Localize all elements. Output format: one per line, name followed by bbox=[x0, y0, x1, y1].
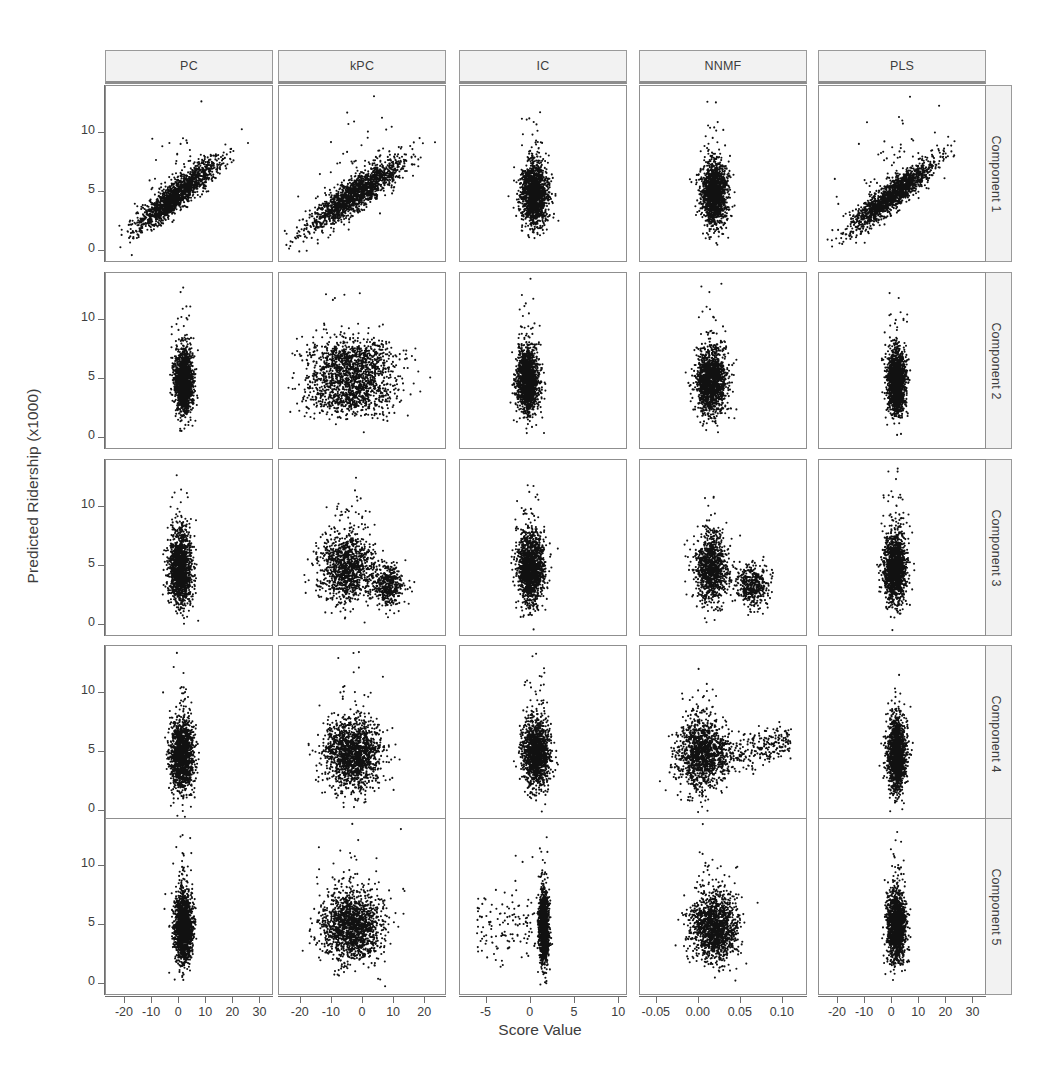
x-tick-mark bbox=[486, 997, 487, 1003]
y-axis-line bbox=[104, 818, 105, 995]
y-tick-label: 5 bbox=[57, 556, 95, 570]
scatter-points bbox=[819, 646, 986, 822]
y-tick-mark bbox=[98, 983, 104, 984]
y-axis-line bbox=[104, 272, 105, 449]
y-tick-label: 0 bbox=[57, 241, 95, 255]
x-axis-line bbox=[459, 996, 627, 997]
scatter-points bbox=[460, 460, 627, 636]
scatter-points bbox=[279, 460, 446, 636]
scatter-panel-pc-component-2 bbox=[105, 272, 273, 449]
scatter-points bbox=[106, 646, 273, 822]
column-strip-label: PLS bbox=[890, 59, 914, 73]
scatter-points bbox=[819, 819, 986, 995]
y-tick-mark bbox=[98, 865, 104, 866]
scatter-panel-ic-component-1 bbox=[459, 85, 627, 262]
y-tick-mark bbox=[98, 810, 104, 811]
y-tick-label: 10 bbox=[57, 123, 95, 137]
scatter-panel-ic-component-2 bbox=[459, 272, 627, 449]
x-tick-mark bbox=[124, 997, 125, 1003]
y-tick-mark bbox=[98, 191, 104, 192]
scatter-points bbox=[106, 273, 273, 449]
y-tick-label: 10 bbox=[57, 497, 95, 511]
x-tick-mark bbox=[891, 997, 892, 1003]
y-axis-line bbox=[104, 85, 105, 262]
x-tick-mark bbox=[530, 997, 531, 1003]
scatter-points bbox=[106, 819, 273, 995]
y-tick-label: 10 bbox=[57, 683, 95, 697]
column-strip-label: PC bbox=[180, 59, 198, 73]
x-tick-mark bbox=[232, 997, 233, 1003]
scatter-panel-ic-component-5 bbox=[459, 818, 627, 995]
row-strip-label: Component 4 bbox=[989, 695, 1003, 772]
y-tick-mark bbox=[98, 437, 104, 438]
scatter-panel-pc-component-5 bbox=[105, 818, 273, 995]
y-axis-title: Predicted Ridership (x1000) bbox=[24, 316, 42, 656]
y-tick-mark bbox=[98, 378, 104, 379]
scatter-panel-nnmf-component-4 bbox=[639, 645, 807, 822]
scatterplot-matrix-figure: Predicted Ridership (x1000) Score Value … bbox=[0, 0, 1052, 1079]
scatter-panel-kpc-component-2 bbox=[278, 272, 446, 449]
y-tick-mark bbox=[98, 132, 104, 133]
scatter-points bbox=[106, 86, 273, 262]
x-tick-label: 0.10 bbox=[752, 1005, 812, 1019]
y-tick-label: 0 bbox=[57, 801, 95, 815]
row-strip-label: Component 1 bbox=[989, 135, 1003, 212]
row-strip-label: Component 3 bbox=[989, 509, 1003, 586]
x-tick-mark bbox=[331, 997, 332, 1003]
x-tick-mark bbox=[837, 997, 838, 1003]
x-tick-label: 30 bbox=[942, 1005, 1002, 1019]
scatter-panel-pc-component-4 bbox=[105, 645, 273, 822]
x-axis-line bbox=[818, 996, 986, 997]
scatter-panel-pls-component-3 bbox=[818, 459, 986, 636]
scatter-panel-kpc-component-3 bbox=[278, 459, 446, 636]
x-tick-mark bbox=[972, 997, 973, 1003]
x-tick-mark bbox=[205, 997, 206, 1003]
x-tick-mark bbox=[864, 997, 865, 1003]
scatter-panel-pls-component-2 bbox=[818, 272, 986, 449]
x-tick-mark bbox=[574, 997, 575, 1003]
column-strip-pls: PLS bbox=[818, 50, 986, 84]
scatter-panel-pls-component-1 bbox=[818, 85, 986, 262]
y-tick-label: 10 bbox=[57, 310, 95, 324]
scatter-panel-nnmf-component-2 bbox=[639, 272, 807, 449]
scatter-points bbox=[279, 819, 446, 995]
x-tick-mark bbox=[656, 997, 657, 1003]
y-tick-mark bbox=[98, 692, 104, 693]
x-axis-line bbox=[105, 996, 273, 997]
scatter-points bbox=[819, 460, 986, 636]
y-tick-label: 5 bbox=[57, 742, 95, 756]
scatter-points bbox=[640, 86, 807, 262]
x-tick-mark bbox=[300, 997, 301, 1003]
y-tick-mark bbox=[98, 250, 104, 251]
y-tick-label: 0 bbox=[57, 428, 95, 442]
x-tick-mark bbox=[393, 997, 394, 1003]
scatter-points bbox=[279, 646, 446, 822]
scatter-panel-kpc-component-4 bbox=[278, 645, 446, 822]
x-tick-mark bbox=[782, 997, 783, 1003]
y-tick-label: 0 bbox=[57, 615, 95, 629]
scatter-panel-nnmf-component-3 bbox=[639, 459, 807, 636]
y-tick-label: 5 bbox=[57, 369, 95, 383]
x-tick-mark bbox=[178, 997, 179, 1003]
scatter-panel-pls-component-5 bbox=[818, 818, 986, 995]
x-tick-mark bbox=[698, 997, 699, 1003]
row-strip-label: Component 2 bbox=[989, 322, 1003, 399]
x-tick-mark bbox=[259, 997, 260, 1003]
y-tick-mark bbox=[98, 751, 104, 752]
y-tick-mark bbox=[98, 624, 104, 625]
column-strip-kpc: kPC bbox=[278, 50, 446, 84]
scatter-points bbox=[640, 273, 807, 449]
column-strip-label: IC bbox=[537, 59, 550, 73]
y-tick-mark bbox=[98, 565, 104, 566]
x-tick-mark bbox=[740, 997, 741, 1003]
x-axis-title: Score Value bbox=[105, 1021, 975, 1039]
scatter-panel-pls-component-4 bbox=[818, 645, 986, 822]
column-strip-label: NNMF bbox=[705, 59, 742, 73]
scatter-points bbox=[460, 273, 627, 449]
x-tick-mark bbox=[151, 997, 152, 1003]
y-tick-mark bbox=[98, 924, 104, 925]
y-tick-label: 5 bbox=[57, 915, 95, 929]
scatter-panel-nnmf-component-1 bbox=[639, 85, 807, 262]
y-tick-mark bbox=[98, 506, 104, 507]
x-tick-mark bbox=[424, 997, 425, 1003]
